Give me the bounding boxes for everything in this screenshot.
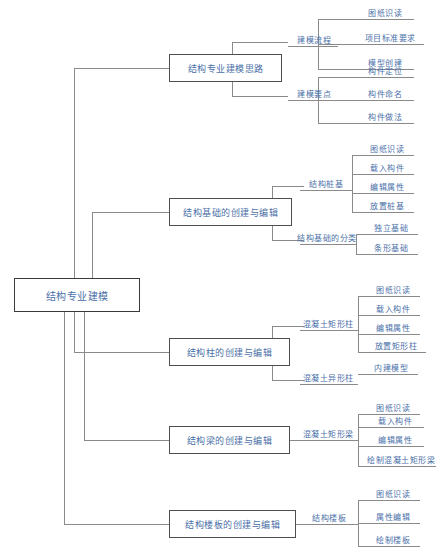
leaf-5-1-2[interactable]: 属性编辑	[366, 509, 420, 523]
subbranch-2-2-text: 结构基础的分类	[297, 232, 357, 243]
leaf-text: 编辑属性	[370, 181, 404, 192]
subbranch-2-1-text: 结构桩基	[309, 178, 343, 189]
leaf-3-2-1[interactable]: 内建模型	[364, 360, 418, 374]
leaf-text: 条形基础	[374, 242, 408, 253]
subbranch-label-5-1[interactable]: 结构楼板	[300, 510, 358, 524]
branch-node-4-label: 结构梁的创建与编辑	[187, 434, 273, 447]
leaf-5-1-1[interactable]: 图纸识读	[366, 486, 420, 500]
leaf-text: 图纸识读	[368, 7, 402, 18]
leaf-1-2-2[interactable]: 构件命名	[356, 86, 414, 100]
branch-node-5-label: 结构楼板的创建与编辑	[185, 518, 280, 531]
leaf-text: 构件做法	[368, 111, 402, 122]
branch-node-2[interactable]: 结构基础的创建与编辑	[169, 198, 292, 226]
subbranch-label-1-2[interactable]: 建模要点	[288, 86, 340, 100]
leaf-2-1-4[interactable]: 放置桩基	[360, 198, 414, 212]
subbranch-label-1-1[interactable]: 建模流程	[288, 32, 340, 46]
leaf-4-1-2[interactable]: 载入构件	[366, 413, 424, 427]
branch-node-1[interactable]: 结构专业建模思路	[169, 54, 282, 82]
leaf-text: 图纸识读	[376, 402, 410, 413]
leaf-1-1-1[interactable]: 图纸识读	[356, 5, 414, 19]
mindmap-canvas: 结构专业建模 结构专业建模思路 建模流程 建模要点 图纸识读 项目标准要求 模型…	[0, 0, 444, 557]
leaf-text: 载入构件	[370, 162, 404, 173]
leaf-text: 载入构件	[376, 303, 410, 314]
leaf-text: 构件命名	[368, 88, 402, 99]
leaf-3-1-3[interactable]: 编辑属性	[366, 320, 420, 334]
leaf-2-2-1[interactable]: 独立基础	[364, 220, 418, 234]
leaf-2-1-3[interactable]: 编辑属性	[360, 179, 414, 193]
subbranch-5-1-text: 结构楼板	[312, 512, 346, 523]
subbranch-1-2-text: 建模要点	[297, 88, 331, 99]
subbranch-3-1-text: 混凝土矩形柱	[303, 318, 354, 329]
leaf-3-1-1[interactable]: 图纸识读	[366, 282, 420, 296]
leaf-text: 放置桩基	[370, 200, 404, 211]
leaf-3-1-4[interactable]: 放置矩形柱	[366, 338, 426, 352]
leaf-text: 绘制混凝土矩形梁	[367, 454, 435, 465]
leaf-4-1-4[interactable]: 绘制混凝土矩形梁	[366, 452, 436, 466]
leaf-text: 独立基础	[374, 222, 408, 233]
leaf-4-1-1[interactable]: 图纸识读	[366, 400, 420, 414]
leaf-text: 内建模型	[374, 362, 408, 373]
leaf-1-2-1[interactable]: 构件定位	[356, 63, 414, 77]
leaf-5-1-3[interactable]: 绘制楼板	[366, 532, 420, 546]
root-node[interactable]: 结构专业建模	[14, 278, 140, 312]
leaf-1-2-3[interactable]: 构件做法	[356, 109, 414, 123]
leaf-1-1-2[interactable]: 项目标准要求	[356, 30, 424, 44]
leaf-text: 构件定位	[368, 65, 402, 76]
leaf-text: 图纸识读	[370, 143, 404, 154]
subbranch-3-2-text: 混凝土异形柱	[303, 372, 354, 383]
leaf-2-2-2[interactable]: 条形基础	[364, 240, 418, 254]
leaf-2-1-1[interactable]: 图纸识读	[360, 141, 414, 155]
subbranch-label-2-2[interactable]: 结构基础的分类	[296, 230, 358, 244]
leaf-text: 编辑属性	[378, 434, 412, 445]
leaf-text: 编辑属性	[376, 322, 410, 333]
subbranch-1-1-text: 建模流程	[297, 34, 331, 45]
branch-node-2-label: 结构基础的创建与编辑	[183, 206, 278, 219]
subbranch-label-3-2[interactable]: 混凝土异形柱	[298, 370, 358, 384]
branch-node-5[interactable]: 结构楼板的创建与编辑	[169, 510, 296, 538]
leaf-text: 放置矩形柱	[375, 340, 418, 351]
subbranch-label-3-1[interactable]: 混凝土矩形柱	[298, 316, 358, 330]
leaf-text: 项目标准要求	[365, 32, 416, 43]
leaf-text: 图纸识读	[376, 284, 410, 295]
subbranch-label-2-1[interactable]: 结构桩基	[300, 176, 352, 190]
subbranch-4-1-text: 混凝土矩形梁	[303, 428, 354, 439]
leaf-3-1-2[interactable]: 载入构件	[366, 301, 420, 315]
branch-node-3[interactable]: 结构柱的创建与编辑	[169, 338, 290, 366]
root-node-label: 结构专业建模	[46, 288, 109, 303]
leaf-text: 绘制楼板	[376, 534, 410, 545]
leaf-text: 图纸识读	[376, 488, 410, 499]
leaf-text: 属性编辑	[376, 511, 410, 522]
subbranch-label-4-1[interactable]: 混凝土矩形梁	[298, 426, 358, 440]
leaf-4-1-3[interactable]: 编辑属性	[366, 432, 424, 446]
branch-node-1-label: 结构专业建模思路	[188, 62, 264, 75]
branch-node-3-label: 结构柱的创建与编辑	[187, 346, 273, 359]
leaf-text: 载入构件	[378, 415, 412, 426]
branch-node-4[interactable]: 结构梁的创建与编辑	[169, 426, 290, 454]
leaf-2-1-2[interactable]: 载入构件	[360, 160, 414, 174]
